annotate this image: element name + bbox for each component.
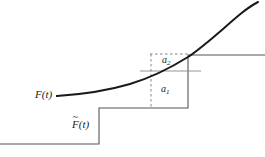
curve-name-text: F(t) bbox=[35, 88, 52, 100]
step-name-accent-wrap: ~ F(t) bbox=[72, 119, 89, 130]
tilde-accent-icon: ~ bbox=[72, 112, 79, 122]
curve-name-label: F(t) bbox=[35, 89, 52, 100]
figure-canvas: F(t) ~ F(t) a2 a1 bbox=[0, 0, 265, 157]
area-lower-subscript: 1 bbox=[166, 88, 170, 96]
area-upper-label: a2 bbox=[162, 55, 171, 65]
figure-svg bbox=[0, 0, 265, 157]
distribution-curve-path bbox=[57, 2, 258, 96]
area-lower-label: a1 bbox=[161, 84, 170, 94]
curve-polyline bbox=[57, 2, 258, 96]
step-name-label: ~ F(t) bbox=[72, 119, 89, 130]
area-upper-subscript: 2 bbox=[167, 59, 171, 67]
